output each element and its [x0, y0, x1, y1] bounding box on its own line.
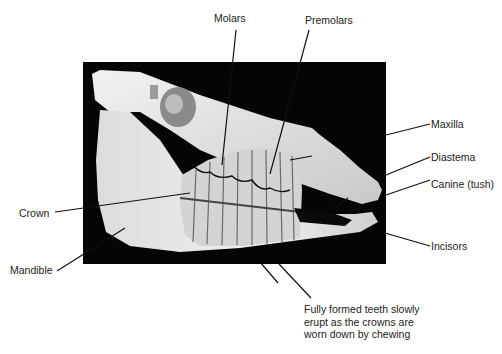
label-crown: Crown	[19, 207, 49, 219]
label-premolars: Premolars	[305, 14, 353, 26]
label-diastema: Diastema	[431, 151, 475, 163]
caption-line-3: worn down by chewing	[304, 328, 420, 341]
skull-illustration	[0, 0, 502, 354]
caption-line-1: Fully formed teeth slowly	[304, 303, 420, 316]
caption-eruption: Fully formed teeth slowly erupt as the c…	[304, 303, 420, 341]
caption-line-2: erupt as the crowns are	[304, 316, 420, 329]
label-molars: Molars	[214, 12, 246, 24]
label-incisors: Incisors	[431, 240, 467, 252]
label-maxilla: Maxilla	[431, 118, 464, 130]
label-mandible: Mandible	[10, 264, 53, 276]
label-canine: Canine (tush)	[431, 178, 494, 190]
teeth-block	[180, 148, 302, 246]
